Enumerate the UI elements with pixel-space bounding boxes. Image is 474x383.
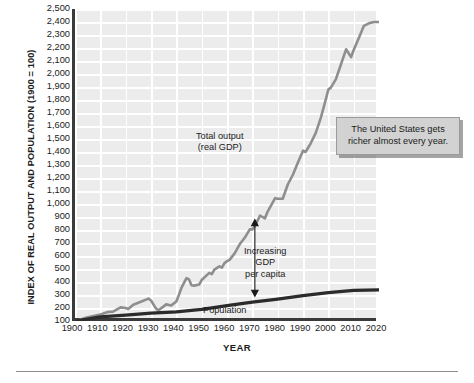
x-axis-title: YEAR [0,342,474,353]
gridline-vertical [379,9,381,318]
y-tick-label: 2,400 [30,17,70,26]
y-tick-label: 1,800 [30,95,70,104]
y-tick-label: 2,200 [30,43,70,52]
x-tick-label: 2000 [315,324,336,333]
x-tick-label: 1900 [62,324,83,333]
x-tick-label: 1990 [290,324,311,333]
y-axis-tick-labels: 2,5002,4002,3002,2002,1002,0001,9001,800… [30,9,70,321]
population-series-label: Population [203,305,246,316]
x-tick-label: 1930 [138,324,159,333]
callout-line1: The United States gets [343,124,453,136]
x-tick-label: 1960 [214,324,235,333]
y-tick-label: 200 [30,303,70,312]
x-tick-label: 1940 [163,324,184,333]
y-tick-label: 2,000 [30,69,70,78]
y-tick-label: 800 [30,225,70,234]
percap-label-line2: GDP [244,257,286,268]
percap-label-line1: Increasing [244,246,286,257]
y-tick-label: 600 [30,251,70,260]
plot-area [72,9,376,321]
y-tick-label: 900 [30,212,70,221]
plot-svg [75,9,379,321]
callout-box: The United States gets richer almost eve… [336,117,460,155]
x-tick-label: 1950 [188,324,209,333]
y-tick-label: 1,200 [30,173,70,182]
y-tick-label: 1,400 [30,147,70,156]
x-tick-label: 2020 [366,324,387,333]
x-tick-label: 2010 [340,324,361,333]
y-tick-label: 1,900 [30,82,70,91]
gdp-label-line1: Total output [196,131,244,142]
y-tick-label: 2,100 [30,56,70,65]
percap-label-line3: per capita [244,269,286,280]
x-axis-tick-labels: 1900191019201930194019501960197019801990… [72,324,376,338]
y-tick-label: 1,300 [30,160,70,169]
gdp-series-line [75,22,379,321]
x-tick-label: 1910 [87,324,108,333]
callout-line2: richer almost every year. [343,136,453,148]
bottom-divider [16,371,458,372]
y-tick-label: 1,100 [30,186,70,195]
y-tick-label: 400 [30,277,70,286]
x-tick-label: 1980 [264,324,285,333]
gdp-label-line2: (real GDP) [196,142,244,153]
y-tick-label: 700 [30,238,70,247]
y-tick-label: 1,000 [30,199,70,208]
y-tick-label: 2,300 [30,30,70,39]
chart-figure: INDEX OF REAL OUTPUT AND POPULATION (190… [0,0,474,383]
y-tick-label: 300 [30,290,70,299]
x-tick-label: 1920 [112,324,133,333]
y-tick-label: 1,500 [30,134,70,143]
y-tick-label: 2,500 [30,4,70,13]
y-tick-label: 1,600 [30,121,70,130]
gdp-series-label: Total output (real GDP) [196,131,244,154]
x-tick-label: 1970 [239,324,260,333]
y-tick-label: 1,700 [30,108,70,117]
gdp-per-capita-label: Increasing GDP per capita [244,246,286,280]
y-tick-label: 500 [30,264,70,273]
